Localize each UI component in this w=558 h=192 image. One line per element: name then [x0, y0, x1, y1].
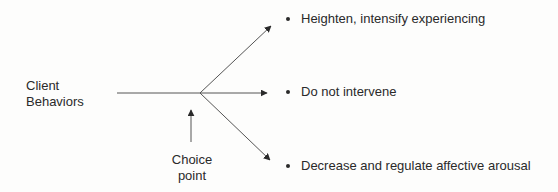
choice-point-line2: point — [166, 168, 218, 184]
option-heighten: Heighten, intensify experiencing — [286, 11, 485, 27]
client-behaviors-label: Client Behaviors — [26, 78, 84, 110]
branch-arrow-decrease — [200, 93, 270, 160]
option-label: Heighten, intensify experiencing — [301, 11, 485, 27]
choice-point-diagram: Client Behaviors Choice point Heighten, … — [0, 0, 558, 192]
bullet-icon — [286, 90, 290, 94]
bullet-icon — [286, 164, 290, 168]
bullet-icon — [286, 17, 290, 21]
option-decrease-regulate: Decrease and regulate affective arousal — [286, 158, 531, 174]
option-label: Do not intervene — [301, 84, 396, 100]
client-behaviors-line2: Behaviors — [26, 94, 84, 110]
client-behaviors-line1: Client — [26, 78, 84, 94]
choice-point-label: Choice point — [166, 152, 218, 184]
option-do-not-intervene: Do not intervene — [286, 84, 396, 100]
branch-arrow-heighten — [200, 26, 271, 93]
option-label: Decrease and regulate affective arousal — [301, 158, 531, 174]
choice-point-line1: Choice — [166, 152, 218, 168]
